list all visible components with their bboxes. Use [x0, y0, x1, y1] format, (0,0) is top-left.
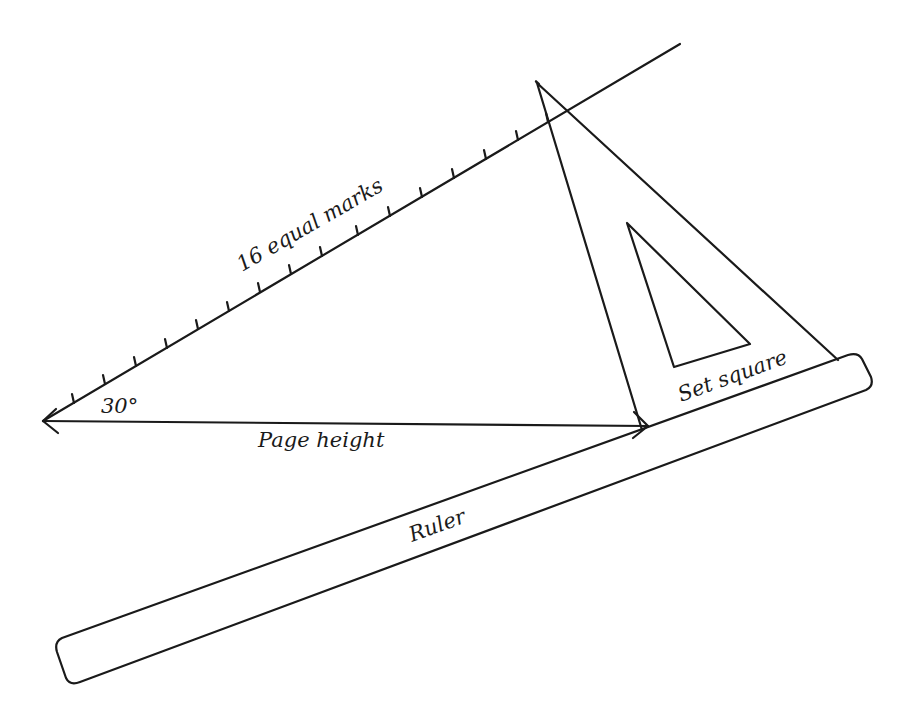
tick-marks: [72, 113, 548, 403]
angle-label: 30°: [101, 394, 138, 418]
diagonal-marks-line: [43, 44, 680, 421]
set-square: [536, 81, 838, 430]
marks-label: 16 equal marks: [233, 173, 388, 276]
page-height-label: Page height: [257, 428, 385, 452]
set-square-ruler-diagram: 30° 16 equal marks Page height Set squar…: [0, 0, 898, 706]
set-square-cutout: [627, 223, 750, 367]
